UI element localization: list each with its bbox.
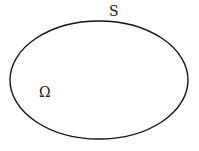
diagram-svg: [0, 0, 199, 151]
boundary-ellipse: [10, 21, 188, 139]
domain-label: Ω: [39, 85, 51, 99]
surface-label: S: [109, 4, 119, 18]
figure-canvas: S Ω: [0, 0, 199, 151]
